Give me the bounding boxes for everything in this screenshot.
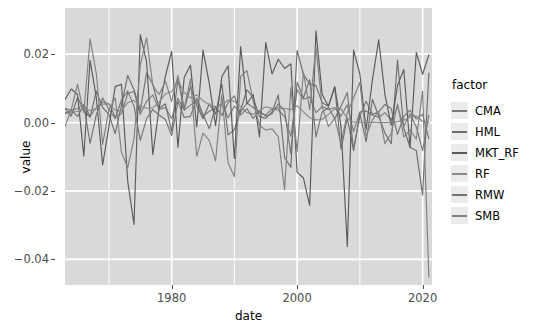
legend: factor CMAHMLMKT_RFRFRMWSMB <box>451 78 537 226</box>
legend-item-hml[interactable]: HML <box>451 121 537 142</box>
legend-item-mkt-rf[interactable]: MKT_RF <box>451 142 537 163</box>
legend-key-swatch <box>451 144 468 161</box>
legend-item-rmw[interactable]: RMW <box>451 184 537 205</box>
legend-key-swatch <box>451 165 468 182</box>
legend-item-label: RMW <box>475 188 504 202</box>
legend-item-label: MKT_RF <box>475 146 519 160</box>
legend-item-cma[interactable]: CMA <box>451 100 537 121</box>
x-tick-mark <box>172 285 173 289</box>
chart-plot: value 0.020.00−0.02−0.04 198020002020 da… <box>0 0 541 334</box>
legend-item-smb[interactable]: SMB <box>451 205 537 226</box>
legend-key-swatch <box>451 186 468 203</box>
legend-key-swatch <box>451 102 468 119</box>
x-tick-label: 2000 <box>282 291 311 305</box>
legend-items: CMAHMLMKT_RFRFRMWSMB <box>451 100 537 226</box>
legend-key-swatch <box>451 207 468 224</box>
legend-key-swatch <box>451 123 468 140</box>
legend-title: factor <box>451 78 537 92</box>
x-tick-mark <box>423 285 424 289</box>
legend-item-label: RF <box>475 167 490 181</box>
x-tick-mark <box>297 285 298 289</box>
x-axis-title: date <box>65 309 432 323</box>
legend-item-label: CMA <box>475 104 501 118</box>
legend-item-label: SMB <box>475 209 500 223</box>
x-tick-label: 1980 <box>157 291 186 305</box>
legend-item-rf[interactable]: RF <box>451 163 537 184</box>
x-tick-label: 2020 <box>408 291 437 305</box>
legend-item-label: HML <box>475 125 500 139</box>
